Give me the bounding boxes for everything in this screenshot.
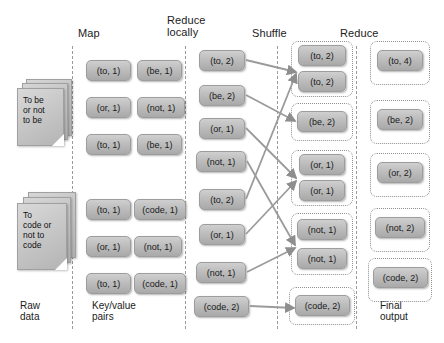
map-pair-1-5: (to, 1) [86, 134, 131, 155]
map-pair-1-4: (not, 1) [137, 97, 185, 118]
shuffle-pair-be-1: (be, 2) [297, 111, 347, 132]
map-pair-1-6: (be, 1) [137, 134, 182, 155]
column-label-reduce: Reduce [340, 27, 379, 39]
separator-reduce [356, 46, 357, 329]
reduce-locally-pair-2: (be, 2) [199, 85, 245, 106]
shuffle-pair-to-1: (to, 2) [298, 45, 346, 66]
reduce-locally-pair-4: (not, 1) [196, 151, 246, 172]
caption-final-output: Final output [380, 300, 408, 322]
shuffle-pair-or-1: (or, 1) [299, 154, 345, 175]
reduce-locally-pair-1: (to, 2) [199, 50, 245, 71]
edge-to2-to-shuffle [246, 74, 296, 199]
column-label-map: Map [78, 27, 100, 39]
map-pair-2-6: (code, 1) [134, 273, 186, 294]
column-label-reduce-locally: Reduce locally [167, 14, 206, 38]
map-pair-1-3: (or, 1) [86, 97, 131, 118]
mapreduce-diagram: Map Reduce locally Shuffle Reduce To be … [0, 0, 444, 343]
map-pair-1-2: (be, 1) [137, 60, 182, 81]
reduce-locally-pair-7: (not, 1) [196, 262, 246, 283]
map-pair-2-2: (code, 1) [134, 199, 186, 220]
reduce-locally-pair-8: (code, 2) [194, 296, 249, 317]
edge-not1-to-shuffle [247, 161, 295, 245]
shuffle-pair-not-1: (not, 1) [297, 219, 347, 240]
edge-or1-to-shuffle [246, 128, 296, 178]
edge-not2-to-shuffle [247, 248, 295, 272]
caption-raw-data: Raw data [20, 300, 40, 322]
map-pair-2-5: (to, 1) [86, 273, 131, 294]
reduce-locally-pair-3: (or, 1) [199, 118, 245, 139]
final-pair-to: (to, 4) [377, 50, 423, 71]
raw-data-stack-1: To be or not to be [16, 79, 76, 151]
shuffle-pair-not-2: (not, 1) [297, 248, 347, 269]
map-pair-2-1: (to, 1) [86, 199, 131, 220]
edge-to1-to-shuffle [246, 60, 296, 72]
final-pair-be: (be, 2) [377, 109, 423, 130]
edge-or2-to-shuffle [246, 181, 296, 234]
caption-key-value: Key/value pairs [92, 300, 136, 322]
edge-be-to-shuffle [246, 95, 295, 121]
shuffle-pair-code-1: (code, 2) [295, 295, 350, 316]
raw-data-sheet-front-1: To be or not to be [17, 88, 64, 146]
final-pair-code: (code, 2) [373, 267, 428, 288]
raw-data-stack-2: To code or not to code [16, 192, 78, 278]
raw-data-text-1: To be or not to be [23, 95, 45, 125]
reduce-locally-pair-5: (to, 2) [199, 189, 245, 210]
final-pair-not: (not, 2) [375, 217, 425, 238]
raw-data-sheet-front-2: To code or not to code [17, 203, 67, 270]
separator-shuffle [277, 46, 278, 329]
column-label-shuffle: Shuffle [252, 27, 287, 39]
final-pair-or: (or, 2) [377, 162, 423, 183]
reduce-locally-pair-6: (or, 1) [199, 224, 245, 245]
map-pair-2-3: (or, 1) [86, 236, 131, 257]
edge-code-to-shuffle [250, 306, 294, 308]
map-pair-1-1: (to, 1) [86, 60, 131, 81]
raw-data-text-2: To code or not to code [23, 210, 51, 250]
shuffle-pair-or-2: (or, 1) [299, 180, 345, 201]
map-pair-2-4: (not, 1) [134, 236, 182, 257]
shuffle-pair-to-2: (to, 2) [298, 71, 346, 92]
